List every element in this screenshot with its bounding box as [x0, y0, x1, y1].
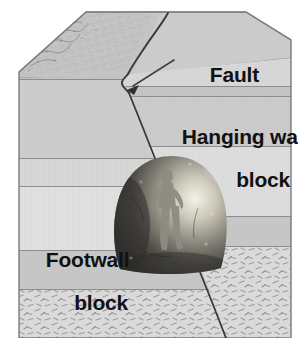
figure-canvas: Fault Hanging wall block Footwall block: [0, 0, 298, 338]
geologic-block-diagram: [0, 0, 298, 338]
